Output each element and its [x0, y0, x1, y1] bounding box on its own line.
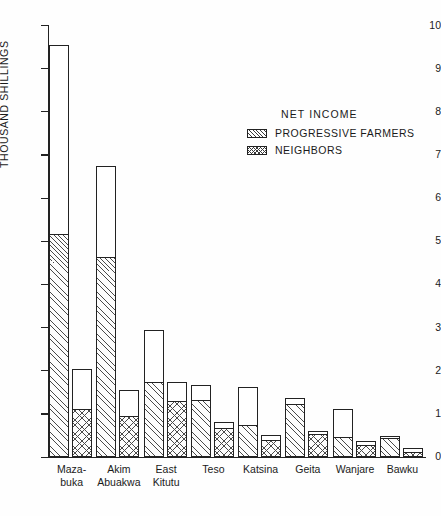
bar-net-income-segment [120, 416, 138, 456]
x-axis-label-line: Bawku [373, 463, 432, 476]
bar-progressive-farmers [238, 387, 258, 457]
plot-area [48, 25, 426, 457]
bar-neighbors [356, 441, 376, 457]
bar-progressive-farmers [49, 45, 69, 457]
bar-net-income-segment [215, 428, 233, 456]
chart-figure: THOUSAND SHILLINGS 012345678910 Maza-buk… [0, 0, 441, 516]
bar-net-income-segment [404, 452, 422, 456]
bar-net-income-segment [168, 401, 186, 456]
legend-item-label: PROGRESSIVE FARMERS [275, 127, 415, 139]
bar-progressive-farmers [285, 398, 305, 458]
bar-net-income-segment [73, 409, 91, 457]
bar-progressive-farmers [380, 436, 400, 457]
x-axis-label-line: Kitutu [137, 476, 196, 489]
bar-net-income-segment [286, 404, 304, 456]
bar-net-income-segment [381, 438, 399, 456]
bar-neighbors [308, 431, 328, 457]
bar-progressive-farmers [191, 385, 211, 458]
bar-progressive-farmers [144, 330, 164, 457]
bar-net-income-segment [97, 257, 115, 456]
bar-net-income-segment [145, 382, 163, 456]
bar-net-income-segment [192, 400, 210, 456]
legend-title: NET INCOME [281, 108, 432, 120]
bar-neighbors [72, 369, 92, 458]
bar-progressive-farmers [96, 166, 116, 457]
bar-net-income-segment [50, 234, 68, 456]
bar-net-income-segment [239, 425, 257, 456]
x-axis-label-7: Bawku [373, 463, 432, 476]
bar-neighbors [214, 422, 234, 457]
bar-neighbors [261, 435, 281, 457]
bar-net-income-segment [357, 445, 375, 456]
bar-neighbors [119, 390, 139, 457]
bar-net-income-segment [309, 434, 327, 456]
bar-neighbors [403, 448, 423, 457]
bar-net-income-segment [262, 440, 280, 456]
legend-item-neighbors: NEIGHBORS [247, 144, 432, 156]
legend-item-label: NEIGHBORS [275, 144, 343, 156]
legend-item-progressive-farmers: PROGRESSIVE FARMERS [247, 127, 432, 139]
legend: NET INCOME PROGRESSIVE FARMERS NEIGHBORS [247, 108, 432, 161]
y-axis-title: THOUSAND SHILLINGS [0, 28, 10, 168]
diagonal-hatch-swatch-icon [247, 129, 267, 138]
bar-progressive-farmers [333, 409, 353, 457]
cross-hatch-swatch-icon [247, 146, 267, 155]
bar-neighbors [167, 382, 187, 458]
bar-net-income-segment [334, 437, 352, 456]
